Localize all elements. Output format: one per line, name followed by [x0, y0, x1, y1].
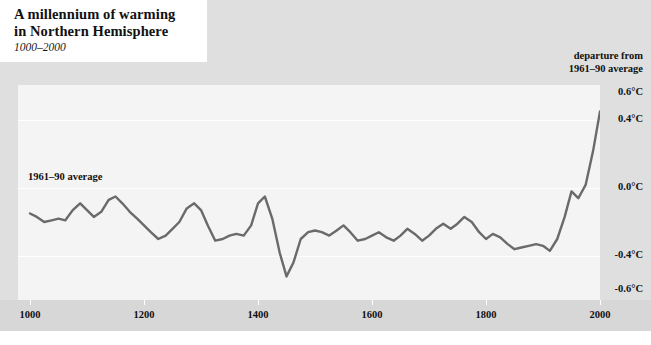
- x-tick-mark-1800: [486, 300, 487, 305]
- title-subtitle: 1000–2000: [14, 41, 66, 53]
- title-box: A millennium of warming in Northern Hemi…: [0, 0, 207, 62]
- y-tick-label-0.4: 0.4°C: [573, 113, 643, 124]
- title-line-1: A millennium of warming: [14, 6, 175, 22]
- y-axis-header-line-1: departure from: [574, 50, 643, 61]
- y-tick-label--0.4: -0.4°C: [573, 249, 643, 260]
- y-axis-header: departure from 1961–90 average: [503, 50, 643, 75]
- x-tick-label-1400: 1400: [248, 309, 269, 320]
- x-axis-band: [0, 300, 651, 331]
- y-tick-label-0.0: 0.0°C: [573, 181, 643, 192]
- x-tick-label-1600: 1600: [362, 309, 383, 320]
- x-tick-mark-2000: [600, 300, 601, 305]
- x-tick-mark-1000: [30, 300, 31, 305]
- page-title: A millennium of warming in Northern Hemi…: [14, 6, 204, 40]
- title-line-2: in Northern Hemisphere: [14, 23, 168, 39]
- y-tick-label-0.6: 0.6°C: [573, 86, 643, 97]
- x-tick-label-1000: 1000: [20, 309, 41, 320]
- x-tick-mark-1200: [144, 300, 145, 305]
- temperature-line-chart: [18, 85, 600, 300]
- x-tick-label-1800: 1800: [476, 309, 497, 320]
- y-axis-header-line-2: 1961–90 average: [569, 63, 643, 74]
- x-tick-label-2000: 2000: [590, 309, 611, 320]
- x-tick-label-1200: 1200: [134, 309, 155, 320]
- bottom-margin: [0, 331, 651, 345]
- baseline-annotation: 1961–90 average: [28, 171, 102, 182]
- x-tick-mark-1600: [372, 300, 373, 305]
- plot-area: [18, 85, 600, 300]
- series-line: [30, 112, 600, 277]
- x-tick-mark-1400: [258, 300, 259, 305]
- y-tick-label--0.6: -0.6°C: [573, 283, 643, 294]
- chart-root: A millennium of warming in Northern Hemi…: [0, 0, 651, 345]
